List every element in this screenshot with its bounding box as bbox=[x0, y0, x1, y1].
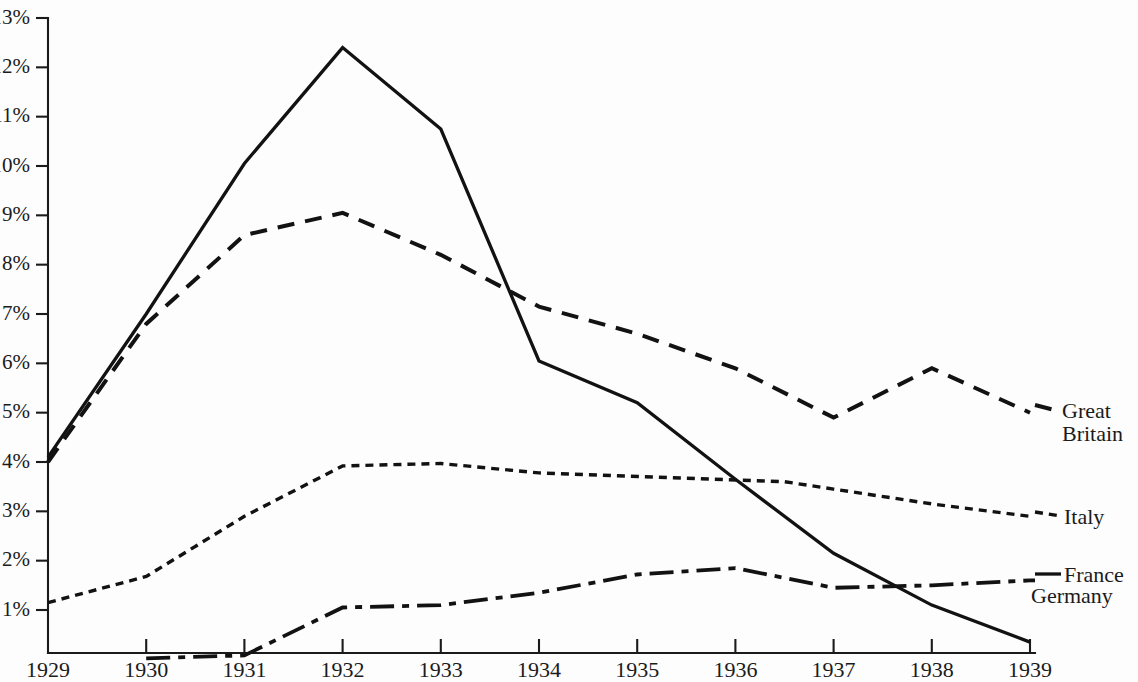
x-tick-label: 1937 bbox=[812, 657, 856, 682]
great-britain-leader bbox=[1035, 405, 1058, 411]
y-tick-label: 9% bbox=[2, 202, 30, 226]
series-line-great-britain bbox=[48, 213, 1030, 462]
data-series-group bbox=[48, 48, 1035, 659]
x-tick-label: 1939 bbox=[1008, 657, 1052, 682]
y-tick-label: 3% bbox=[2, 498, 30, 522]
y-tick-label: 1% bbox=[2, 597, 30, 621]
series-line-italy bbox=[48, 464, 1030, 603]
y-tick-label: 12% bbox=[0, 54, 30, 78]
unemployment-line-chart: 1%2%3%4%5%6%7%8%9%10%11%12%13% 192919301… bbox=[0, 0, 1138, 682]
x-tick-label: 1932 bbox=[321, 657, 365, 682]
x-tick-label: 1938 bbox=[910, 657, 954, 682]
y-tick-label: 10% bbox=[0, 153, 30, 177]
y-tick-label: 5% bbox=[2, 399, 30, 423]
x-tick-label: 1936 bbox=[713, 657, 757, 682]
chart-canvas: 1%2%3%4%5%6%7%8%9%10%11%12%13% 192919301… bbox=[0, 0, 1138, 682]
axes bbox=[48, 18, 1035, 653]
series-line-france bbox=[48, 48, 1030, 643]
x-tick-label: 1934 bbox=[517, 657, 561, 682]
y-axis-ticks: 1%2%3%4%5%6%7%8%9%10%11%12%13% bbox=[0, 5, 48, 621]
y-tick-label: 2% bbox=[2, 547, 30, 571]
series-label-germany: Germany bbox=[1031, 583, 1113, 608]
italy-leader bbox=[1035, 512, 1061, 516]
label-leader-lines bbox=[1035, 405, 1061, 574]
series-label-italy: Italy bbox=[1064, 504, 1104, 529]
x-tick-label: 1935 bbox=[615, 657, 659, 682]
series-line-germany bbox=[146, 568, 1030, 658]
y-tick-label: 13% bbox=[0, 5, 30, 29]
x-tick-label: 1929 bbox=[26, 657, 70, 682]
series-label-great-britain-line2: Britain bbox=[1062, 421, 1123, 446]
y-tick-label: 4% bbox=[2, 449, 30, 473]
y-tick-label: 6% bbox=[2, 350, 30, 374]
y-tick-label: 8% bbox=[2, 251, 30, 275]
series-label-great-britain-line1: Great bbox=[1062, 398, 1111, 423]
y-tick-label: 7% bbox=[2, 301, 30, 325]
x-tick-label: 1930 bbox=[124, 657, 168, 682]
x-tick-label: 1931 bbox=[222, 657, 266, 682]
x-axis-ticks: 1929193019311932193319341935193619371938… bbox=[26, 639, 1052, 682]
y-tick-label: 11% bbox=[0, 103, 30, 127]
x-tick-label: 1933 bbox=[419, 657, 463, 682]
